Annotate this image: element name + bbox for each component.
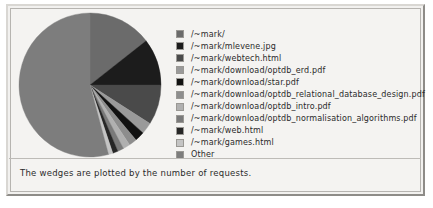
legend-item-label: /~mark/download/optdb_erd.pdf xyxy=(191,66,325,75)
legend-color-swatch xyxy=(176,54,184,62)
legend-item-label: /~mark/games.html xyxy=(191,138,274,147)
legend-item: Other xyxy=(176,149,426,161)
legend-color-swatch xyxy=(176,66,184,74)
legend-item-label: /~mark/download/optdb_intro.pdf xyxy=(191,102,331,111)
legend-color-swatch xyxy=(176,42,184,50)
legend-item-label: /~mark/download/optdb_relational_databas… xyxy=(191,90,425,99)
legend-item-label: /~mark/webtech.html xyxy=(191,54,281,63)
legend-item-label: /~mark/web.html xyxy=(191,126,263,135)
legend-color-swatch xyxy=(176,115,184,123)
caption-divider xyxy=(9,158,421,159)
legend-item-label: /~mark/download/optdb_normalisation_algo… xyxy=(191,114,417,123)
legend-item: /~mark/download/optdb_relational_databas… xyxy=(176,88,426,100)
legend-item: /~mark/download/optdb_intro.pdf xyxy=(176,101,426,113)
legend-item: /~mark/mlevene.jpg xyxy=(176,40,426,52)
legend-item: /~mark/games.html xyxy=(176,137,426,149)
pie-chart-svg xyxy=(17,12,169,158)
legend-item: /~mark/download/star.pdf xyxy=(176,76,426,88)
legend-color-swatch xyxy=(176,127,184,135)
legend-color-swatch xyxy=(176,103,184,111)
pie-slice-group xyxy=(19,13,161,157)
legend-color-swatch xyxy=(176,78,184,86)
legend-color-swatch xyxy=(176,91,184,99)
legend-color-swatch xyxy=(176,139,184,147)
legend-item-label: /~mark/ xyxy=(191,30,225,39)
legend-item: /~mark/ xyxy=(176,28,426,40)
legend-item: /~mark/download/optdb_erd.pdf xyxy=(176,64,426,76)
legend-item-label: /~mark/mlevene.jpg xyxy=(191,42,276,51)
legend-item: /~mark/web.html xyxy=(176,125,426,137)
legend-item: /~mark/download/optdb_normalisation_algo… xyxy=(176,113,426,125)
pie-chart-screenshot: /~mark//~mark/mlevene.jpg/~mark/webtech.… xyxy=(0,0,433,208)
legend-item: /~mark/webtech.html xyxy=(176,52,426,64)
legend-item-label: /~mark/download/star.pdf xyxy=(191,78,299,87)
chart-legend: /~mark//~mark/mlevene.jpg/~mark/webtech.… xyxy=(176,28,426,161)
pie-chart xyxy=(17,12,169,158)
legend-color-swatch xyxy=(176,30,184,38)
chart-caption: The wedges are plotted by the number of … xyxy=(20,168,251,179)
